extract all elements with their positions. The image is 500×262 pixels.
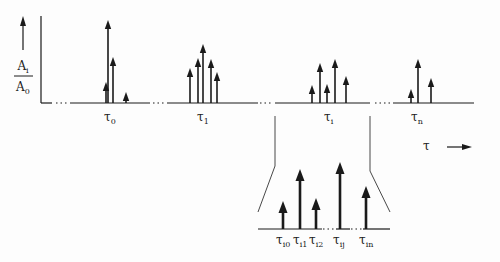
group-label-tau-0: τ0 xyxy=(104,111,116,123)
inset-label-tau-in: τin xyxy=(359,234,373,246)
y-label-denominator-sub: 0 xyxy=(25,87,30,96)
y-axis-label-denominator: A0 xyxy=(10,80,36,94)
inset-label-tau-i0: τi0 xyxy=(276,234,290,246)
x-axis-label: τ xyxy=(423,140,430,152)
inset-label-tau-i1: τi1 xyxy=(293,234,307,246)
inset-impulse-arrows xyxy=(279,162,371,229)
diagram-canvas: Ai A0 τ0 τ1 τi τn τ τi0 τi1 τi2 τij τin xyxy=(0,0,500,262)
y-axis-arrow-icon xyxy=(20,16,26,50)
impulse-arrows xyxy=(103,20,434,103)
y-label-numerator-text: A xyxy=(17,59,26,73)
group-label-tau-1: τ1 xyxy=(197,111,209,123)
y-label-denominator-text: A xyxy=(16,80,25,94)
y-axis-label-numerator: Ai xyxy=(10,59,36,73)
group-label-tau-n: τn xyxy=(411,111,423,123)
diagram-graphics xyxy=(0,0,500,262)
inset-label-tau-ij: τij xyxy=(333,234,345,246)
inset-label-tau-i2: τi2 xyxy=(309,234,323,246)
y-label-numerator-sub: i xyxy=(26,66,29,75)
tau-direction-arrow-icon xyxy=(447,144,472,150)
group-label-tau-i: τi xyxy=(324,111,333,123)
